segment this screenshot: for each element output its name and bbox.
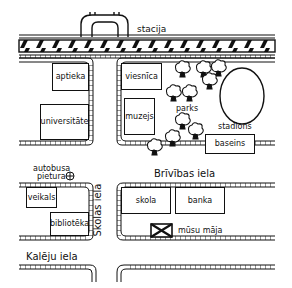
block-lower <box>19 265 275 282</box>
street-skolas: Skolas iela <box>93 180 103 240</box>
railway <box>19 35 275 58</box>
tree-icon <box>182 85 197 101</box>
building-library[interactable]: bibliotēka <box>50 212 89 236</box>
tree-icon <box>147 139 162 155</box>
our-house-icon <box>151 224 172 237</box>
building-label: bibliotēka <box>50 220 89 228</box>
building-label: universitāte <box>41 118 89 126</box>
building-label: skola <box>136 197 157 205</box>
building-museum[interactable]: muzejs <box>124 98 155 135</box>
building-label: viesnīca <box>125 73 158 81</box>
tree-icon <box>188 123 203 139</box>
building-pool[interactable]: baseins <box>205 134 255 154</box>
street-brivibas: Brīvības iela <box>154 169 215 179</box>
station-label: stacija <box>137 25 166 34</box>
building-label: aptieka <box>56 73 86 81</box>
building-pharmacy[interactable]: aptieka <box>52 63 89 91</box>
building-label: muzejs <box>125 113 153 121</box>
bus-stop-icon <box>66 172 74 180</box>
building-label: veikals <box>28 194 56 202</box>
building-label: baseins <box>215 140 246 148</box>
stadium-label: stadions <box>218 123 252 131</box>
tree-icon <box>175 113 190 129</box>
our-house-label: mūsu māja <box>178 227 222 235</box>
building-shop[interactable]: veikals <box>26 187 57 208</box>
stadium-oval <box>220 68 264 124</box>
tree-icon <box>175 61 190 77</box>
station-bridge <box>81 12 128 37</box>
building-bank[interactable]: banka <box>175 187 225 214</box>
building-university[interactable]: universitāte <box>40 104 89 140</box>
tree-icon <box>166 85 181 101</box>
tree-icon <box>202 73 217 89</box>
building-hotel[interactable]: viesnīca <box>121 63 162 90</box>
street-kaleju: Kalēju iela <box>26 252 78 262</box>
bus-stop-label-line2: pietura <box>37 173 66 181</box>
park-label: parks <box>176 105 198 113</box>
building-label: banka <box>188 197 212 205</box>
building-school[interactable]: skola <box>121 187 171 214</box>
